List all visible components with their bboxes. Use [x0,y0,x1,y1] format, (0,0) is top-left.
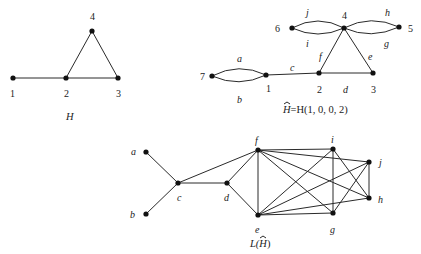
edge-d-e [227,183,258,215]
label-7: 7 [200,71,205,82]
label-2: 2 [317,84,322,95]
edge-g [344,27,399,34]
node-6 [289,25,294,30]
node-e [255,212,260,217]
edge-label-e: e [368,51,373,62]
node-3 [115,75,120,80]
edge-label-c: c [290,62,295,73]
graph-h: 4 1 2 3 H [10,11,121,122]
label-h: h [378,194,383,205]
label-3: 3 [371,84,376,95]
node-a [143,149,148,154]
edge-f [319,28,344,73]
label-j: j [377,157,382,168]
node-4 [341,25,346,30]
node-1 [10,75,15,80]
edge-b [212,75,266,82]
edge-c-f [178,150,258,183]
caption-h-hat: H=H(1, 0, 0, 2) [282,104,348,116]
node-i [330,146,335,151]
label-2: 2 [64,88,69,99]
graph-h-hat: 7 1 2 3 4 6 5 a b c d e f g h i j H=H(1,… [200,7,413,116]
label-4: 4 [342,10,347,21]
edge-i [292,28,344,34]
label-3: 3 [116,88,121,99]
label-b: b [130,209,135,220]
label-1: 1 [266,83,271,94]
label-g: g [330,224,335,235]
node-2 [316,70,321,75]
graph-line-graph: a b c d f e i j h g L(H) [130,134,383,250]
edge-label-b: b [237,94,242,105]
edge-3-4 [92,31,118,78]
caption-lg-suffix: ) [267,238,271,250]
edge-a-c [146,152,178,183]
label-f: f [255,135,259,146]
label-a: a [131,146,136,157]
label-i: i [331,134,334,145]
edge-b-c [146,183,178,214]
node-c [175,180,180,185]
caption-h: H [65,111,75,122]
edge-label-i: i [306,38,309,49]
edge-j [292,21,344,28]
edge-label-j: j [304,7,309,18]
edge-2-4 [66,31,92,78]
edge-c [266,73,319,75]
node-1 [263,72,268,77]
label-1: 1 [10,88,15,99]
edge-f-h [258,150,369,198]
node-j [366,159,371,164]
node-b [143,211,148,216]
edge-label-f: f [319,51,323,62]
node-g [330,210,335,215]
edge-label-g: g [384,38,389,49]
diagram-canvas: 4 1 2 3 H 7 1 2 3 4 6 5 a [0,0,421,254]
label-e: e [255,224,260,235]
edge-h [344,21,399,28]
label-6: 6 [275,23,280,34]
label-c: c [177,192,182,203]
node-f [255,147,260,152]
label-d: d [224,192,230,203]
edge-label-h: h [385,7,390,18]
edge-a [212,69,266,76]
edge-f-j [258,150,369,162]
node-7 [209,73,214,78]
edge-label-d: d [343,84,349,95]
node-h [366,195,371,200]
edge-d-f [227,150,258,183]
caption-h-hat-rest: =H(1, 0, 0, 2) [291,104,349,116]
edge-f-i [258,149,333,150]
edge-j-g [333,162,369,213]
edge-label-a: a [237,53,242,64]
node-5 [396,24,401,29]
caption-line-graph: L(H) [249,238,271,250]
node-2 [63,75,68,80]
node-3 [370,70,375,75]
node-d [224,180,229,185]
label-4: 4 [90,11,95,22]
node-4 [89,28,94,33]
edge-e-j [258,162,369,215]
label-5: 5 [408,23,413,34]
